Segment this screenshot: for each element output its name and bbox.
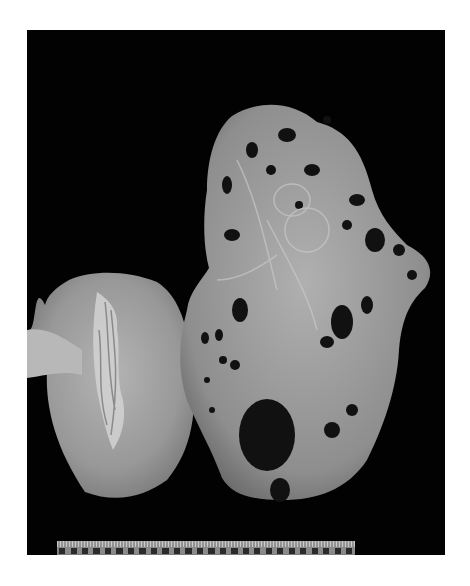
specimen-photograph (27, 30, 445, 555)
ruler-markings (59, 548, 355, 554)
specimen-illustration (27, 30, 445, 555)
ruler-ticks (57, 541, 355, 547)
scale-ruler (57, 541, 355, 555)
polycystic-kidney (180, 105, 430, 502)
normal-kidney (27, 273, 194, 498)
